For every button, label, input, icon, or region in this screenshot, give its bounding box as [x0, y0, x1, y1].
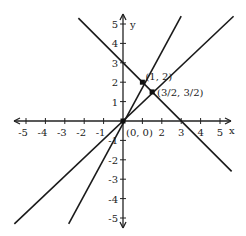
y-tick-label: -3 — [108, 174, 118, 185]
label-point-1-2: (1, 2) — [145, 71, 172, 82]
x-axis-label: x — [229, 125, 235, 136]
x-tick-label: -1 — [96, 127, 106, 138]
x-tick-label: -2 — [76, 127, 86, 138]
coordinate-plot: -5-4-3-2-12345-5-4-3-2-112345yx (1, 2)(3… — [0, 0, 246, 236]
label-point-3-2: (3/2, 3/2) — [157, 87, 203, 98]
y-tick-label: -2 — [108, 155, 118, 166]
y-tick-label: 1 — [112, 97, 118, 108]
point-marker-0 — [140, 80, 145, 85]
point-marker-1 — [150, 89, 155, 94]
y-tick-label: 2 — [112, 77, 118, 88]
y-tick-label: 4 — [112, 38, 118, 49]
y-tick-label: 5 — [112, 19, 118, 30]
x-tick-label: -4 — [38, 127, 48, 138]
x-tick-label: 3 — [178, 127, 184, 138]
label-origin: (0, 0) — [126, 127, 153, 138]
y-axis-label: y — [129, 19, 136, 30]
y-tick-label: 3 — [112, 58, 118, 69]
x-tick-label: 5 — [217, 127, 223, 138]
x-tick-label: 4 — [197, 127, 203, 138]
y-tick-label: -4 — [108, 194, 118, 205]
x-tick-label: -5 — [18, 127, 28, 138]
x-tick-label: 2 — [159, 127, 165, 138]
series-line-0 — [78, 18, 231, 171]
y-tick-label: -5 — [108, 213, 118, 224]
point-marker-2 — [121, 119, 126, 124]
x-tick-label: -3 — [57, 127, 67, 138]
